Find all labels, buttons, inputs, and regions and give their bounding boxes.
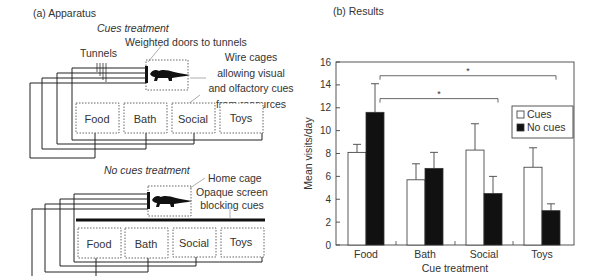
y-tick-label: 0 [325, 240, 331, 251]
y-tick-label: 6 [325, 171, 331, 182]
x-tick-label: Toys [531, 248, 553, 260]
x-tick-label: Social [470, 248, 499, 260]
significance-bracket [380, 76, 556, 80]
y-axis-title: Mean visits/day [302, 117, 314, 190]
significance-bracket [380, 99, 498, 103]
bar-toys-no-cues [542, 211, 560, 245]
significance-star: * [466, 66, 470, 76]
legend-swatch [517, 124, 524, 131]
y-tick-label: 10 [320, 125, 332, 136]
legend-swatch [517, 111, 524, 118]
bar-social-cues [466, 150, 484, 245]
x-tick-label: Bath [414, 248, 436, 260]
y-tick-label: 12 [320, 102, 332, 113]
bar-bath-cues [407, 180, 425, 245]
y-tick-label: 8 [325, 148, 331, 159]
y-tick-label: 4 [325, 194, 331, 205]
bar-bath-no-cues [425, 168, 443, 245]
legend-label: Cues [527, 108, 552, 120]
y-tick-label: 2 [325, 217, 331, 228]
bar-social-no-cues [484, 194, 502, 245]
x-tick-label: Food [354, 248, 378, 260]
bar-food-cues [348, 152, 366, 245]
y-tick-label: 14 [320, 79, 332, 90]
y-tick-label: 16 [320, 57, 332, 68]
significance-star: * [437, 89, 441, 99]
bar-food-no-cues [366, 112, 384, 245]
legend-label: No cues [527, 121, 566, 133]
x-axis-title: Cue treatment [422, 262, 489, 274]
results-bar-chart: 0246810121416Mean visits/dayCue treatmen… [0, 0, 599, 276]
bar-toys-cues [524, 167, 542, 245]
